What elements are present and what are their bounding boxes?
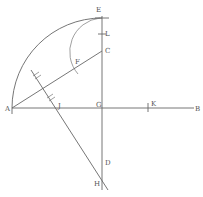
label-J: J bbox=[57, 102, 61, 110]
label-B: B bbox=[195, 105, 200, 113]
label-K: K bbox=[151, 100, 157, 108]
line-AC bbox=[12, 51, 102, 108]
label-C: C bbox=[105, 47, 110, 55]
line-JH bbox=[31, 70, 108, 190]
label-G: G bbox=[96, 101, 102, 109]
label-D: D bbox=[105, 159, 111, 167]
label-F: F bbox=[75, 58, 80, 66]
label-E: E bbox=[96, 6, 101, 14]
label-H: H bbox=[94, 180, 100, 188]
label-L: L bbox=[105, 30, 110, 38]
geometric-construction: E L C F A J G K B D H bbox=[0, 0, 203, 197]
label-A: A bbox=[4, 105, 11, 113]
